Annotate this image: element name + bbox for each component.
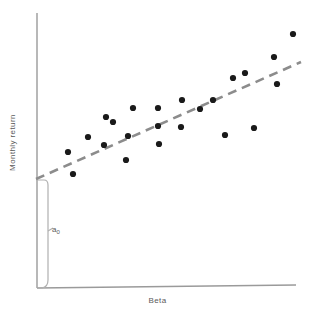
scatter-point xyxy=(65,149,71,155)
scatter-point xyxy=(271,54,277,60)
regression-trendline xyxy=(36,62,301,179)
intercept-brace xyxy=(37,180,48,288)
scatter-point xyxy=(125,133,131,139)
y-axis-label: Monthly return xyxy=(8,107,17,179)
scatter-point xyxy=(210,97,216,103)
scatter-point xyxy=(242,70,248,76)
scatter-point xyxy=(251,125,257,131)
scatter-point xyxy=(197,106,203,112)
scatter-point xyxy=(155,105,161,111)
intercept-annotation: a0 xyxy=(52,225,60,235)
intercept-subscript: 0 xyxy=(56,229,59,235)
scatter-point xyxy=(70,171,76,177)
scatter-point xyxy=(222,132,228,138)
scatter-point xyxy=(103,114,109,120)
scatter-point xyxy=(155,123,161,129)
scatter-point xyxy=(274,81,280,87)
scatter-point xyxy=(156,141,162,147)
scatter-point xyxy=(123,157,129,163)
scatter-point xyxy=(230,75,236,81)
scatter-point xyxy=(130,105,136,111)
scatter-point xyxy=(179,97,185,103)
scatter-points xyxy=(65,31,296,177)
plot-canvas xyxy=(0,0,315,316)
x-axis-label: Beta xyxy=(0,296,315,305)
scatter-figure: Monthly return Beta a0 xyxy=(0,0,315,316)
scatter-point xyxy=(85,134,91,140)
scatter-point xyxy=(178,124,184,130)
scatter-point xyxy=(101,142,107,148)
scatter-point xyxy=(110,119,116,125)
x-axis-line xyxy=(37,285,296,288)
scatter-point xyxy=(290,31,296,37)
